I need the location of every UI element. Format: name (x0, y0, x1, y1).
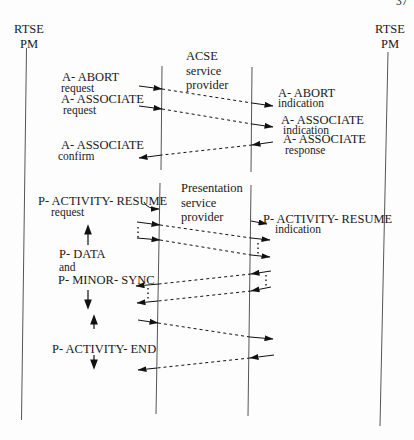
resume-indication-type: indication (275, 224, 321, 236)
acse-provider-label: ACSE service provider (186, 50, 228, 92)
presentation-provider-label: Presentation service provider (181, 182, 243, 224)
repetition-dots (138, 227, 266, 300)
activity-end-label: P- ACTIVITY- END (52, 343, 156, 356)
resume-request-type: request (51, 207, 84, 219)
presentation-left-lifeline (156, 183, 160, 414)
left-rtse-pm-label: RTSE PM (14, 23, 44, 50)
associate-request-type: request (63, 105, 96, 117)
associate-confirm-type: confirm (58, 151, 94, 163)
presentation-right-lifeline (248, 185, 251, 416)
right-rtse-lifeline (380, 52, 388, 426)
acse-right-lifeline (251, 67, 252, 172)
right-rtse-pm-label: RTSE PM (370, 23, 410, 50)
associate-response-type: response (285, 145, 325, 157)
p-minor-sync-label: P- MINOR- SYNC (58, 274, 155, 287)
abort-indication-type: indication (278, 98, 324, 110)
acse-left-lifeline (161, 66, 162, 170)
and-label: and (59, 262, 76, 274)
p-data-label: P- DATA (59, 248, 106, 261)
acse-arrows (139, 86, 273, 158)
left-rtse-lifeline (22, 48, 27, 420)
sequence-diagram: 37 (0, 0, 414, 440)
